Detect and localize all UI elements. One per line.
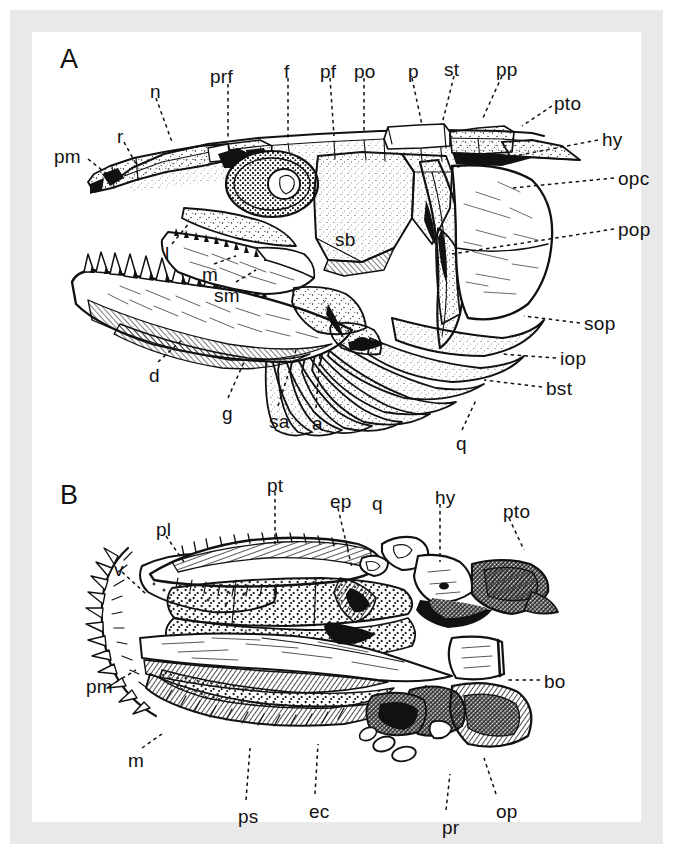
label-pl-b: pl <box>156 520 171 539</box>
panel-letter-a: A <box>60 46 78 73</box>
label-po-a: po <box>354 62 376 81</box>
panel-letter-b: B <box>60 482 78 509</box>
label-iop-a: iop <box>560 349 586 368</box>
label-hy-a: hy <box>602 130 623 149</box>
label-l-a: l <box>165 244 170 263</box>
label-sa-a: sa <box>269 412 290 431</box>
label-bo-b: bo <box>544 672 566 691</box>
label-m-b: m <box>128 751 144 770</box>
figure-plate: A pm r n prf f pf po p st pp pto hy opc … <box>0 0 673 854</box>
label-ec-b: ec <box>309 802 330 821</box>
label-q-a: q <box>456 434 467 453</box>
label-pt-b: pt <box>267 476 283 495</box>
label-pf-a: pf <box>320 62 336 81</box>
label-g-a: g <box>222 404 233 423</box>
label-m-a: m <box>202 265 218 284</box>
label-bst-a: bst <box>546 379 572 398</box>
label-v-b: v <box>114 560 124 579</box>
label-pr-b: pr <box>442 818 460 837</box>
label-pp-a: pp <box>496 60 518 79</box>
label-d-a: d <box>149 366 160 385</box>
label-sop-a: sop <box>584 314 616 333</box>
label-a-a: a <box>312 414 323 433</box>
label-sb-a: sb <box>335 230 356 249</box>
label-prf-a: prf <box>210 67 233 86</box>
label-opc-a: opc <box>618 169 650 188</box>
label-sm-a: sm <box>214 286 240 305</box>
label-pop-a: pop <box>618 220 651 239</box>
label-st-a: st <box>444 60 459 79</box>
figure-drawing-area: A pm r n prf f pf po p st pp pto hy opc … <box>32 32 641 822</box>
label-hy-b: hy <box>435 488 456 507</box>
label-r-a: r <box>117 127 124 146</box>
label-pm-b: pm <box>86 677 113 696</box>
label-f-a: f <box>284 62 290 81</box>
label-ps-b: ps <box>238 807 259 826</box>
label-pto-b: pto <box>503 502 530 521</box>
label-pm-a: pm <box>54 147 81 166</box>
label-n-a: n <box>150 82 161 101</box>
label-q-b: q <box>372 494 383 513</box>
label-ep-b: ep <box>330 492 352 511</box>
label-p-a: p <box>408 62 419 81</box>
label-pto-a: pto <box>554 94 581 113</box>
label-op-b: op <box>496 802 518 821</box>
